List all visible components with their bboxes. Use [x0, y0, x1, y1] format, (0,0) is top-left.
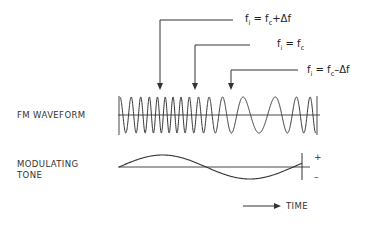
time-arrow-head	[274, 203, 281, 209]
arrow-max-frequency	[160, 20, 233, 84]
time-label: TIME	[286, 201, 308, 212]
equation-min-frequency: fi = fc–Δf	[307, 64, 350, 78]
modulating-tone-label-line1: MODULATING	[17, 159, 79, 170]
modulating-tone-label-line2: TONE	[17, 170, 42, 181]
equation-center-frequency: fi = fc	[277, 38, 304, 52]
arrow-min-frequency	[231, 70, 298, 84]
fm-waveform-label: FM WAVEFORM	[17, 110, 86, 121]
callout-arrows	[160, 20, 298, 84]
minus-sign: –	[314, 172, 319, 183]
plus-sign: +	[314, 152, 322, 163]
equation-max-frequency: fi = fc+Δf	[245, 13, 291, 27]
arrow-heads	[157, 83, 234, 90]
arrow-center-frequency	[195, 45, 250, 84]
